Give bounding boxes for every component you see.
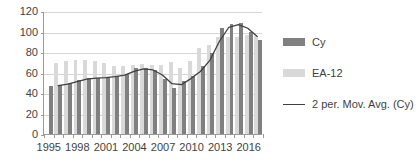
x-tick-mark [63, 134, 64, 138]
x-tick-mark [196, 134, 197, 138]
x-tick-mark [168, 134, 169, 138]
x-tick-mark [149, 134, 150, 138]
y-tick-label: 40 [2, 88, 38, 99]
x-tick-mark [139, 134, 140, 138]
x-tick-label: 2016 [236, 141, 260, 153]
x-tick-mark [263, 134, 264, 138]
plot-area: 020406080100120 199519982001200420072010… [43, 12, 262, 135]
x-tick-label: 2013 [208, 141, 232, 153]
x-tick-mark [158, 134, 159, 138]
x-tick-mark [234, 134, 235, 138]
y-tick-label: 120 [2, 6, 38, 17]
chart-legend: Cy EA-12 2 per. Mov. Avg. (Cy) [283, 36, 419, 129]
x-tick-mark [225, 134, 226, 138]
legend-label-ea12: EA-12 [312, 67, 343, 79]
x-tick-mark [177, 134, 178, 138]
legend-label-cy: Cy [312, 36, 325, 48]
y-tick-label: 0 [2, 129, 38, 140]
legend-item-moving-average[interactable]: 2 per. Mov. Avg. (Cy) [283, 98, 419, 110]
y-tick-label: 100 [2, 27, 38, 38]
x-tick-mark [111, 134, 112, 138]
x-tick-label: 2007 [151, 141, 175, 153]
x-tick-mark [187, 134, 188, 138]
legend-item-cy[interactable]: Cy [283, 36, 419, 48]
x-tick-mark [73, 134, 74, 138]
x-tick-mark [253, 134, 254, 138]
line-swatch-icon [283, 104, 305, 105]
y-tick-label: 20 [2, 109, 38, 120]
y-tick-label: 80 [2, 47, 38, 58]
x-tick-mark [130, 134, 131, 138]
x-tick-label: 2010 [179, 141, 203, 153]
y-tick-label: 60 [2, 68, 38, 79]
x-tick-mark [206, 134, 207, 138]
x-tick-mark [244, 134, 245, 138]
x-tick-label: 1998 [65, 141, 89, 153]
x-tick-label: 1995 [37, 141, 61, 153]
x-tick-mark [101, 134, 102, 138]
x-tick-label: 2001 [94, 141, 118, 153]
combo-chart: 020406080100120 199519982001200420072010… [0, 0, 419, 163]
legend-label-moving-average: 2 per. Mov. Avg. (Cy) [312, 98, 414, 110]
plot-wrapper: 020406080100120 199519982001200420072010… [0, 0, 272, 163]
x-tick-label: 2004 [122, 141, 146, 153]
moving-average-line [44, 12, 262, 134]
x-tick-mark [82, 134, 83, 138]
x-tick-mark [54, 134, 55, 138]
x-tick-mark [92, 134, 93, 138]
x-tick-mark [120, 134, 121, 138]
x-tick-mark [44, 134, 45, 138]
legend-item-ea12[interactable]: EA-12 [283, 67, 419, 79]
bar-swatch-light-icon [283, 69, 305, 77]
moving-average-polyline [58, 25, 257, 86]
bar-swatch-dark-icon [283, 38, 305, 46]
x-tick-mark [215, 134, 216, 138]
